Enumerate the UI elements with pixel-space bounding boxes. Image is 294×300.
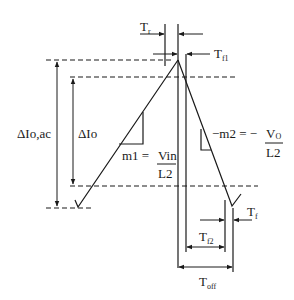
m2-numerator: VO	[266, 126, 281, 141]
dimension-arrows	[57, 34, 252, 267]
delta-io-ac-label: ΔIo,ac	[17, 126, 51, 141]
delta-io-label: ΔIo	[78, 126, 97, 141]
m1-label: m1 =	[122, 148, 149, 163]
toff-label: Toff	[199, 274, 216, 291]
m2-denominator: L2	[266, 145, 280, 160]
tf2-label: Tf2	[199, 229, 214, 246]
tr-label: Tr	[140, 19, 151, 36]
m2-label: −m2 = −	[212, 126, 257, 141]
ripple-waveform-diagram: ΔIo,ac ΔIo m1 = Vin L2 −m2 = − VO L2 Tr …	[0, 0, 294, 300]
tf1-label: Tf1	[214, 46, 229, 63]
tf-label: Tf	[247, 204, 258, 221]
m1-numerator: Vin	[158, 148, 177, 163]
m1-denominator: L2	[158, 166, 172, 181]
